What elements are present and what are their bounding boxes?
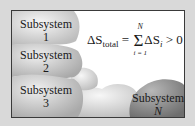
subsystem-1-label: Subsystem 1 bbox=[18, 18, 74, 44]
subsystem-n-label: Subsystem N bbox=[130, 92, 185, 118]
isolated-system-frame: Subsystem 1 Subsystem 2 Subsystem 3 Subs… bbox=[11, 10, 185, 118]
subsystem-3-label: Subsystem 3 bbox=[18, 84, 74, 110]
entropy-equation: ΔStotal = N Σ i = 1 ΔSi > 0 bbox=[87, 31, 183, 51]
subsystem-2-label: Subsystem 2 bbox=[18, 49, 74, 75]
summation-symbol: N Σ i = 1 bbox=[133, 31, 143, 51]
